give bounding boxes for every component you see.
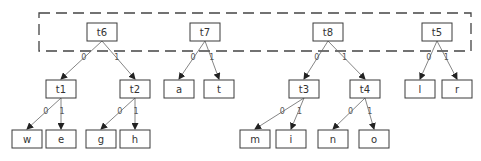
- node-label: h: [132, 134, 138, 145]
- edge-label: 0: [81, 53, 86, 62]
- node-label: t6: [97, 27, 107, 38]
- node-t8: t8: [313, 23, 343, 41]
- edge-t5-l: 0: [420, 41, 437, 79]
- edges: 0101010101010101: [27, 41, 457, 129]
- node-a: a: [164, 80, 194, 98]
- edge-label: 0: [348, 107, 353, 116]
- edge-t2-h: 1: [133, 98, 138, 129]
- nodes: t6t7t8t5t1t2att3t4lrweghmino: [12, 23, 472, 148]
- edge-t1-w: 0: [27, 98, 61, 129]
- node-t4: t4: [350, 80, 380, 98]
- edge-label: 1: [114, 53, 119, 62]
- node-l: l: [405, 80, 435, 98]
- node-label: t5: [432, 27, 442, 38]
- node-t2: t2: [120, 80, 150, 98]
- node-t3: t3: [289, 80, 319, 98]
- node-m: m: [240, 130, 270, 148]
- edge-label: 0: [280, 107, 285, 116]
- edge-t6-t2: 1: [102, 41, 135, 79]
- node-label: t4: [360, 84, 370, 95]
- edge-label: 1: [209, 53, 214, 62]
- edge-label: 0: [426, 53, 431, 62]
- node-t6: t6: [87, 23, 117, 41]
- node-label: m: [250, 134, 260, 145]
- node-label: a: [176, 84, 182, 95]
- node-t5: t5: [422, 23, 452, 41]
- edge-t5-r: 1: [437, 41, 457, 79]
- edge-t8-t4: 1: [328, 41, 365, 79]
- node-label: t: [217, 84, 221, 95]
- edge-t3-i: 1: [291, 98, 304, 129]
- node-label: t3: [299, 84, 309, 95]
- edge-t2-g: 0: [101, 98, 135, 129]
- edge-t4-n: 0: [333, 98, 365, 129]
- node-label: t2: [130, 84, 140, 95]
- edge-t4-o: 1: [365, 98, 374, 129]
- node-label: n: [330, 134, 336, 145]
- node-t7: t7: [190, 23, 220, 41]
- node-h: h: [120, 130, 150, 148]
- edge-label: 0: [314, 53, 319, 62]
- node-label: l: [419, 84, 422, 95]
- node-t: t: [204, 80, 234, 98]
- edge-label: 1: [59, 107, 64, 116]
- edge-t8-t3: 0: [304, 41, 328, 79]
- node-g: g: [86, 130, 116, 148]
- edge-label: 0: [43, 107, 48, 116]
- edge-label: 1: [133, 107, 138, 116]
- huffman-forest-diagram: 0101010101010101 t6t7t8t5t1t2att3t4lrweg…: [0, 0, 481, 161]
- node-o: o: [359, 130, 389, 148]
- node-label: o: [371, 134, 377, 145]
- edge-t6-t1: 0: [61, 41, 102, 79]
- edge-label: 1: [367, 107, 372, 116]
- node-r: r: [442, 80, 472, 98]
- node-label: t8: [323, 27, 333, 38]
- edge-t7-a: 0: [179, 41, 205, 79]
- node-i: i: [276, 130, 306, 148]
- node-label: w: [23, 134, 31, 145]
- edge-label: 1: [444, 53, 449, 62]
- node-w: w: [12, 130, 42, 148]
- edge-label: 0: [191, 53, 196, 62]
- node-label: t1: [56, 84, 66, 95]
- edge-label: 0: [117, 107, 122, 116]
- node-label: g: [98, 134, 104, 145]
- edge-label: 1: [342, 53, 347, 62]
- node-label: i: [290, 134, 293, 145]
- node-label: t7: [200, 27, 210, 38]
- node-n: n: [318, 130, 348, 148]
- node-t1: t1: [46, 80, 76, 98]
- edge-label: 1: [297, 107, 302, 116]
- node-label: e: [58, 134, 64, 145]
- edge-t1-e: 1: [59, 98, 64, 129]
- node-e: e: [46, 130, 76, 148]
- edge-t7-t: 1: [205, 41, 219, 79]
